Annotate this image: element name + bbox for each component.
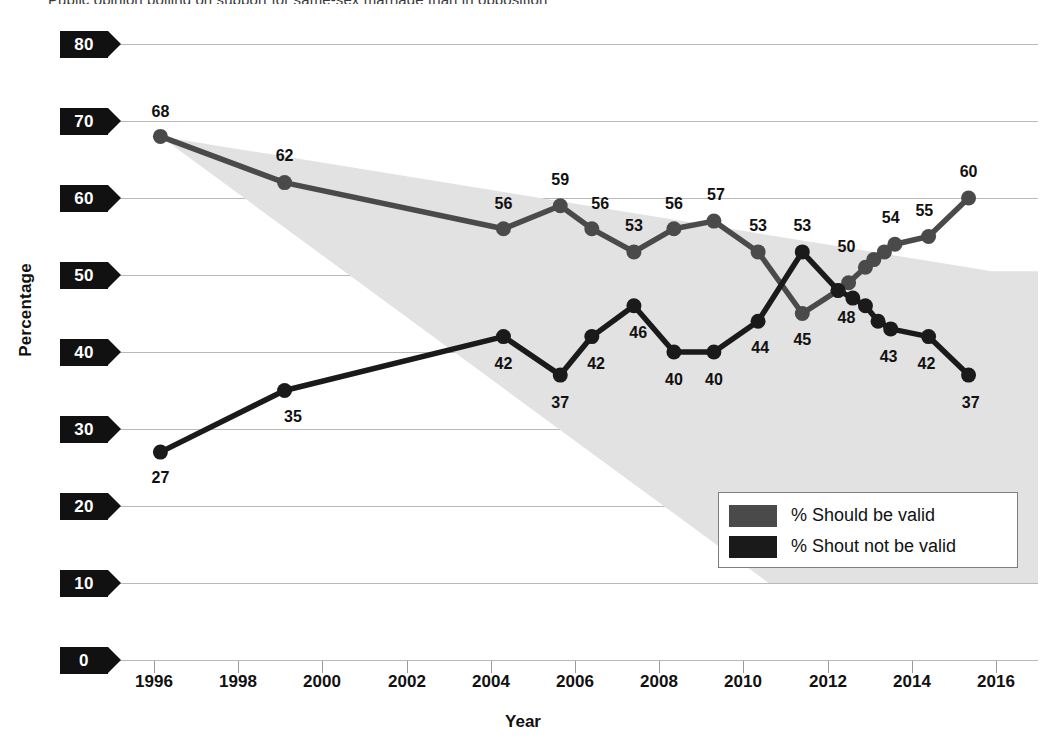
data-point[interactable] (961, 368, 976, 383)
data-point[interactable] (666, 345, 681, 360)
chart-root: Public opinion polling on support for sa… (0, 0, 1046, 746)
data-point[interactable] (584, 329, 599, 344)
point-value-label: 46 (629, 324, 647, 342)
legend-label-should-not-be-valid: % Shout not be valid (791, 536, 956, 557)
point-value-label: 42 (918, 355, 936, 373)
data-point[interactable] (795, 244, 810, 259)
point-value-label: 55 (915, 202, 933, 220)
point-value-label: 68 (151, 103, 169, 121)
point-value-label: 59 (551, 171, 569, 189)
point-value-label: 53 (749, 217, 767, 235)
point-value-label: 43 (880, 348, 898, 366)
data-point[interactable] (277, 175, 292, 190)
point-value-label: 44 (751, 339, 769, 357)
point-value-label: 56 (495, 195, 513, 213)
data-point[interactable] (751, 314, 766, 329)
point-value-label: 53 (625, 217, 643, 235)
point-value-label: 56 (591, 195, 609, 213)
point-value-label: 53 (793, 217, 811, 235)
point-value-label: 42 (587, 355, 605, 373)
data-point[interactable] (883, 321, 898, 336)
data-point[interactable] (553, 368, 568, 383)
point-value-label: 54 (882, 209, 900, 227)
data-point[interactable] (626, 244, 641, 259)
point-value-label: 35 (284, 408, 302, 426)
data-point[interactable] (887, 237, 902, 252)
data-point[interactable] (626, 298, 641, 313)
data-point[interactable] (858, 298, 873, 313)
point-value-label: 57 (707, 186, 725, 204)
data-point[interactable] (921, 329, 936, 344)
data-point[interactable] (666, 221, 681, 236)
data-point[interactable] (961, 191, 976, 206)
data-point[interactable] (831, 283, 846, 298)
data-point[interactable] (496, 221, 511, 236)
legend: % Should be valid % Shout not be valid (718, 492, 1018, 568)
data-point[interactable] (921, 229, 936, 244)
point-value-label: 37 (551, 394, 569, 412)
point-value-label: 48 (838, 309, 856, 327)
data-point[interactable] (553, 198, 568, 213)
point-value-label: 50 (838, 238, 856, 256)
point-value-label: 40 (665, 371, 683, 389)
legend-item[interactable]: % Shout not be valid (729, 531, 1007, 562)
data-point[interactable] (845, 291, 860, 306)
point-value-label: 56 (665, 195, 683, 213)
point-value-label: 42 (495, 355, 513, 373)
point-value-label: 62 (276, 147, 294, 165)
data-point[interactable] (153, 129, 168, 144)
data-point[interactable] (277, 383, 292, 398)
data-point[interactable] (706, 214, 721, 229)
point-value-label: 37 (962, 394, 980, 412)
point-value-label: 60 (960, 163, 978, 181)
legend-item[interactable]: % Should be valid (729, 500, 1007, 531)
data-point[interactable] (751, 244, 766, 259)
data-point[interactable] (153, 445, 168, 460)
data-point[interactable] (584, 221, 599, 236)
point-value-label: 40 (705, 371, 723, 389)
legend-label-should-be-valid: % Should be valid (791, 505, 935, 526)
point-value-label: 27 (151, 469, 169, 487)
data-point[interactable] (706, 345, 721, 360)
data-point[interactable] (871, 314, 886, 329)
data-point[interactable] (795, 306, 810, 321)
legend-swatch-should-not-be-valid (729, 536, 777, 558)
legend-swatch-should-be-valid (729, 505, 777, 527)
point-value-label: 45 (793, 331, 811, 349)
data-point[interactable] (496, 329, 511, 344)
